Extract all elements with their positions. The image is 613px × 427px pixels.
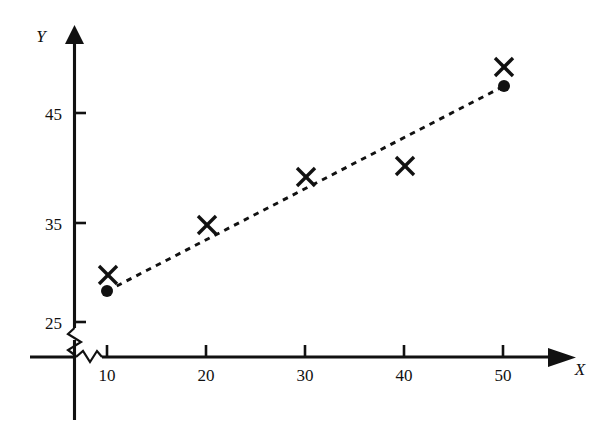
x-tick-label-20: 20 xyxy=(198,366,215,385)
x-tick-label-50: 50 xyxy=(495,366,512,385)
data-point-cross-x10 xyxy=(99,266,117,284)
x-tick-label-30: 30 xyxy=(297,366,314,385)
data-point-cross-x40 xyxy=(396,157,414,175)
x-axis-ticks xyxy=(107,345,503,357)
y-tick-labels: 45 35 25 xyxy=(45,105,62,333)
data-point-dot-x50 xyxy=(498,80,510,92)
scatter-plot-figure: 10 20 30 40 50 45 35 25 Y X xyxy=(0,0,613,427)
x-axis-title: X xyxy=(574,360,586,379)
x-axis-break-zigzag-icon xyxy=(76,351,102,362)
observed-markers-group xyxy=(99,58,513,284)
x-tick-label-10: 10 xyxy=(99,366,116,385)
y-axis-ticks xyxy=(75,113,87,322)
x-tick-labels: 10 20 30 40 50 xyxy=(99,366,512,385)
y-axis-arrow-icon xyxy=(65,25,84,44)
data-point-cross-x20 xyxy=(198,216,216,234)
axes-group xyxy=(30,25,576,420)
data-point-dot-x10 xyxy=(101,285,113,297)
y-axis-title: Y xyxy=(36,27,47,46)
x-axis-arrow-icon xyxy=(548,348,576,367)
y-tick-label-25: 25 xyxy=(45,314,62,333)
x-tick-label-40: 40 xyxy=(396,366,413,385)
regression-line xyxy=(107,86,504,291)
data-point-cross-x50 xyxy=(495,58,513,76)
y-tick-label-45: 45 xyxy=(45,105,62,124)
plot-canvas: 10 20 30 40 50 45 35 25 Y X xyxy=(0,0,613,427)
data-point-cross-x30 xyxy=(297,168,315,186)
y-tick-label-35: 35 xyxy=(45,215,62,234)
